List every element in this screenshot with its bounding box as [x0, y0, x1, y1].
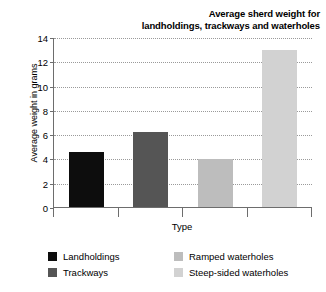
category-ticks	[53, 208, 311, 217]
chart-title-line-1: Average sherd weight for	[120, 8, 320, 20]
legend-swatch-icon	[48, 252, 57, 261]
bar-slot	[248, 38, 313, 208]
bar-slot	[119, 38, 184, 208]
y-tick-label: 4	[43, 154, 48, 165]
y-tick-label: 2	[43, 178, 48, 189]
y-tick-label: 0	[43, 203, 48, 214]
legend-swatch-icon	[48, 268, 57, 277]
chart-title-line-2: landholdings, trackways and waterholes	[120, 20, 320, 32]
bar[interactable]	[69, 152, 104, 208]
chart-title: Average sherd weight for landholdings, t…	[120, 8, 320, 31]
bar[interactable]	[198, 159, 233, 208]
category-tick	[247, 208, 248, 217]
y-tick-label: 12	[37, 57, 48, 68]
x-axis-end-tick	[53, 208, 54, 217]
x-axis-end-tick	[311, 208, 312, 217]
y-tick-label: 8	[43, 105, 48, 116]
y-tick-label: 6	[43, 130, 48, 141]
legend-swatch-icon	[174, 252, 183, 261]
bar-slot	[183, 38, 248, 208]
bar[interactable]	[262, 50, 297, 208]
legend-item[interactable]: Steep-sided waterholes	[174, 267, 320, 278]
y-tick-label: 14	[37, 33, 48, 44]
legend-item[interactable]: Landholdings	[48, 251, 168, 262]
bar-slot	[54, 38, 119, 208]
y-tick-label: 10	[37, 81, 48, 92]
legend-label: Ramped waterholes	[189, 251, 274, 262]
bars-layer	[54, 38, 312, 208]
bar[interactable]	[133, 132, 168, 209]
chart-legend: LandholdingsRamped waterholesTrackwaysSt…	[48, 248, 320, 280]
bar-chart: Average sherd weight for landholdings, t…	[0, 0, 326, 292]
legend-label: Steep-sided waterholes	[189, 267, 288, 278]
legend-label: Landholdings	[63, 251, 120, 262]
legend-item[interactable]: Trackways	[48, 267, 168, 278]
x-axis-title: Type	[53, 221, 311, 232]
legend-label: Trackways	[63, 267, 108, 278]
plot-area: 02468101214	[53, 38, 312, 208]
category-tick	[118, 208, 119, 217]
category-tick	[182, 208, 183, 217]
legend-item[interactable]: Ramped waterholes	[174, 251, 320, 262]
legend-swatch-icon	[174, 268, 183, 277]
